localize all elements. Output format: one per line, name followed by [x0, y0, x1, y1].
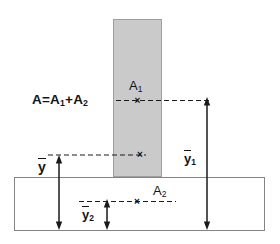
- area2-label-base: A: [153, 183, 162, 198]
- ybar1-dimension-arrow: [204, 97, 210, 230]
- a1-centroid-mark: ×: [135, 95, 141, 105]
- ybar2-label-subscript: 2: [89, 213, 94, 223]
- ybar-label-base: y: [38, 158, 46, 174]
- centroid-composite-area-diagram: × × × A=A1+A2 A1 A2 y y1 y2: [0, 0, 280, 244]
- area2-label: A2: [153, 184, 166, 199]
- formula-part: A=A: [32, 92, 60, 107]
- area1-label-base: A: [129, 78, 138, 93]
- ybar1-label-subscript: 1: [191, 157, 196, 167]
- area1-label-subscript: 1: [138, 84, 143, 94]
- area-sum-formula: A=A1+A2: [32, 93, 88, 108]
- ybar1-label: y1: [184, 150, 196, 167]
- dimension-lines: [0, 0, 280, 244]
- area2-label-subscript: 2: [162, 189, 167, 199]
- ybar-dimension-arrow: [56, 155, 62, 230]
- a2-centroid-mark: ×: [134, 196, 140, 206]
- overall-centroid-mark: ×: [137, 150, 143, 160]
- formula-subscript: 2: [83, 98, 88, 108]
- ybar-label: y: [38, 158, 46, 174]
- area1-label: A1: [129, 79, 142, 94]
- formula-part: +A: [65, 92, 83, 107]
- ybar2-dimension-arrow: [104, 199, 110, 230]
- ybar2-label: y2: [82, 206, 94, 223]
